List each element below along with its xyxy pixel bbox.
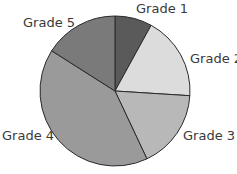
label-grade-1: Grade 1 — [136, 1, 188, 16]
label-grade-5: Grade 5 — [23, 15, 75, 30]
label-grade-4: Grade 4 — [2, 128, 54, 143]
label-grade-2: Grade 2 — [190, 51, 237, 66]
label-grade-3: Grade 3 — [183, 128, 235, 143]
